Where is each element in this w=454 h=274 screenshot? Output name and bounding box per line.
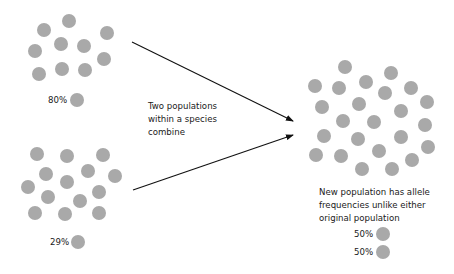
allele-dot (352, 97, 366, 111)
allele-dot (332, 81, 346, 95)
new-population-caption: New population has allele frequencies un… (319, 186, 430, 225)
allele-dot (404, 81, 418, 95)
allele-dot (351, 132, 365, 146)
combine-caption-line: within a species (148, 113, 217, 126)
allele-dot (367, 115, 381, 129)
allele-dot (37, 23, 51, 37)
allele-dot (421, 140, 435, 154)
new-population-caption-line: New population has allele (319, 186, 430, 199)
allele-dot (55, 62, 69, 76)
legend-dot (376, 227, 390, 241)
allele-dot (73, 194, 87, 208)
allele-dot (108, 169, 122, 183)
allele-dot (394, 104, 408, 118)
allele-dot (28, 206, 42, 220)
allele-dot (77, 39, 91, 53)
allele-dot (100, 26, 114, 40)
legend-dot (70, 93, 84, 107)
allele-dot (334, 149, 348, 163)
allele-dot (92, 185, 106, 199)
allele-dot (308, 79, 322, 93)
legend-dot (71, 235, 85, 249)
allele-dot (96, 148, 110, 162)
allele-dot (58, 207, 72, 221)
population-b-frequency-label: 29% (50, 236, 69, 248)
allele-dot (60, 149, 74, 163)
allele-dot (39, 167, 53, 181)
allele-dot (97, 52, 111, 66)
arrow (133, 135, 293, 190)
allele-dot (54, 37, 68, 51)
new-population-frequency-label-1: 50% (354, 228, 373, 240)
allele-dot (78, 63, 92, 77)
allele-dot (30, 147, 44, 161)
allele-dot (385, 162, 399, 176)
allele-dot (359, 75, 373, 89)
allele-dot (92, 206, 106, 220)
allele-dot (418, 118, 432, 132)
allele-dot (394, 130, 408, 144)
allele-dot (60, 175, 74, 189)
population-b-dots (21, 147, 122, 249)
allele-dot (384, 66, 398, 80)
allele-dot (62, 14, 76, 28)
combine-caption-line: Two populations (148, 100, 217, 113)
allele-dot (336, 114, 350, 128)
new-population-frequency-label-2: 50% (354, 246, 373, 258)
allele-dot (378, 86, 392, 100)
allele-dot (28, 44, 42, 58)
new-population-caption-line: frequencies unlike either (319, 199, 430, 212)
population-a-frequency-label: 80% (48, 94, 67, 106)
allele-dot (420, 95, 434, 109)
allele-dot (317, 129, 331, 143)
allele-dot (309, 148, 323, 162)
allele-dot (355, 162, 369, 176)
allele-dot (405, 153, 419, 167)
allele-dot (32, 67, 46, 81)
allele-dot (81, 164, 95, 178)
allele-dot (21, 180, 35, 194)
allele-dot (372, 144, 386, 158)
allele-dot (41, 190, 55, 204)
allele-dot (338, 60, 352, 74)
legend-dot (376, 245, 390, 259)
population-a-dots (28, 14, 114, 107)
combine-caption: Two populations within a species combine (148, 100, 217, 139)
diagram-canvas (0, 0, 454, 274)
combine-caption-line: combine (148, 126, 217, 139)
allele-dot (315, 100, 329, 114)
new-population-caption-line: original population (319, 212, 430, 225)
